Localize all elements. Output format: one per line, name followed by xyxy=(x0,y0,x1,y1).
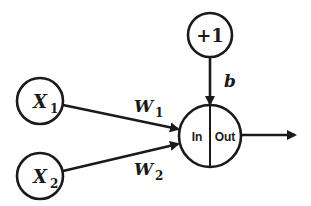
edge-label: W xyxy=(134,159,155,179)
node-subscript: 1 xyxy=(50,102,58,116)
edge-subscript: 1 xyxy=(155,106,163,120)
neuron-diagram: X 1 X 2 +1 In Out W 1 W 2 b xyxy=(0,0,311,206)
neuron-out-label: Out xyxy=(215,130,236,144)
input-node-x1: X 1 xyxy=(17,78,63,124)
bias-node: +1 xyxy=(188,13,232,57)
weight-label-w2: W 2 xyxy=(134,159,163,183)
node-subscript: 2 xyxy=(50,177,58,191)
edge-label: W xyxy=(134,96,155,116)
bias-weight-label: b xyxy=(224,71,236,91)
edge-x2-to-neuron xyxy=(63,144,178,171)
edge-subscript: 2 xyxy=(155,169,163,183)
neuron-node: In Out xyxy=(179,105,241,167)
neuron-in-label: In xyxy=(192,130,203,144)
node-label: +1 xyxy=(196,25,224,46)
node-label: X xyxy=(32,166,48,187)
weight-label-w1: W 1 xyxy=(134,96,163,120)
node-label: X xyxy=(32,91,48,112)
input-node-x2: X 2 xyxy=(17,153,63,199)
edge-label: b xyxy=(224,71,236,91)
